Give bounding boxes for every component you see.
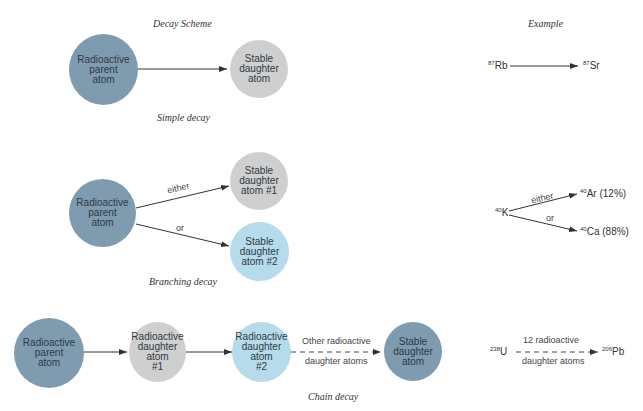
example-12-radioactive-label: 12 radioactive: [523, 335, 579, 345]
example-k40: 40K: [495, 207, 508, 218]
simple-parent-atom: Radioactiveparentatom: [69, 34, 138, 105]
branching-decay-caption: Branching decay: [149, 276, 217, 287]
example-daughter-atoms-label: daughter atoms: [522, 356, 585, 366]
branching-stable-daughter-1: Stabledaughteratom #1: [230, 152, 288, 210]
example-sr87: 87Sr: [583, 60, 600, 71]
chain-decay-caption: Chain decay: [308, 391, 358, 402]
example-ar40: 40Ar (12%): [580, 188, 626, 199]
example-heading: Example: [528, 18, 563, 29]
chain-stable-daughter: Stabledaughteratom: [384, 322, 442, 381]
other-radioactive-label: Other radioactive: [302, 336, 371, 346]
example-u238: 238U: [490, 346, 507, 357]
chain-radioactive-daughter-2: Radioactivedaughteratom#2: [232, 322, 291, 382]
example-pb206: 206Pb: [602, 346, 624, 357]
branching-stable-daughter-2: Stabledaughteratom #2: [230, 222, 289, 281]
decay-scheme-heading: Decay Scheme: [153, 18, 212, 29]
simple-stable-daughter: Stabledaughteratom: [230, 40, 288, 98]
example-or-label: or: [546, 213, 554, 223]
simple-decay-caption: Simple decay: [157, 112, 210, 123]
example-rb87: 87Rb: [488, 60, 507, 71]
daughter-atoms-label: daughter atoms: [305, 356, 368, 366]
example-ca40: 40Ca (88%): [580, 226, 629, 237]
chain-radioactive-daughter-1: Radioactivedaughteratom#1: [129, 322, 186, 382]
branching-parent-atom: Radioactiveparentatom: [69, 179, 136, 247]
or-label: or: [176, 223, 184, 233]
chain-parent-atom: Radioactiveparentatom: [14, 318, 84, 388]
